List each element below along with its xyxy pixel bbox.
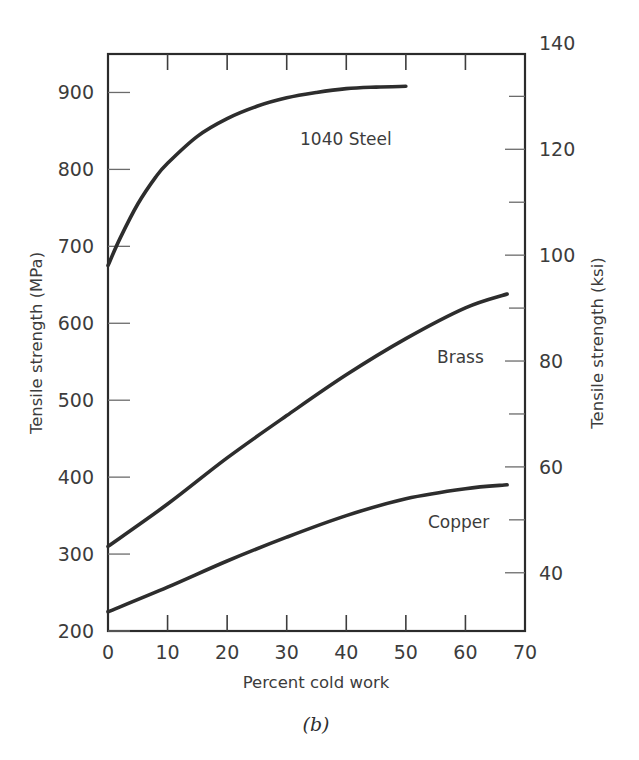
y-tick-label-right: 80: [539, 350, 563, 372]
x-tick-label: 0: [102, 641, 114, 663]
y-tick-label: 400: [58, 466, 94, 488]
y-tick-label: 200: [58, 620, 94, 642]
y-tick-label-right: 140: [539, 32, 575, 54]
y-axis-right-tick-labels: 406080100120140: [539, 32, 575, 583]
series-label-copper: Copper: [428, 512, 489, 532]
x-axis-tick-labels: 010203040506070: [102, 641, 537, 663]
y-axis-right-ticks: [505, 149, 525, 572]
tensile-strength-vs-cold-work-chart: 010203040506070 200300400500600700800900…: [0, 0, 639, 760]
y-tick-label: 300: [58, 543, 94, 565]
series-label-brass: Brass: [437, 347, 484, 367]
x-tick-label: 70: [513, 641, 537, 663]
x-axis-ticks: [168, 615, 466, 631]
x-tick-label: 60: [453, 641, 477, 663]
y-axis-left-title: Tensile strength (MPa): [27, 252, 46, 435]
x-axis-title: Percent cold work: [243, 673, 390, 692]
y-tick-label-right: 100: [539, 244, 575, 266]
series-label-1040-steel: 1040 Steel: [300, 129, 392, 149]
figure-container: 010203040506070 200300400500600700800900…: [0, 0, 639, 760]
y-tick-label-right: 40: [539, 562, 563, 584]
x-tick-label: 30: [275, 641, 299, 663]
y-axis-right-title: Tensile strength (ksi): [588, 257, 607, 429]
y-axis-right-minor-ticks: [509, 96, 525, 519]
x-axis-top-ticks: [168, 54, 466, 70]
series-curve-brass: [108, 294, 507, 546]
y-tick-label-right: 120: [539, 138, 575, 160]
x-tick-label: 10: [155, 641, 179, 663]
y-tick-label: 800: [58, 158, 94, 180]
y-tick-label: 700: [58, 235, 94, 257]
x-tick-label: 50: [394, 641, 418, 663]
y-axis-left-ticks: [108, 92, 130, 631]
x-tick-label: 40: [334, 641, 358, 663]
y-axis-left-tick-labels: 200300400500600700800900: [58, 81, 94, 642]
y-tick-label: 600: [58, 312, 94, 334]
y-tick-label: 900: [58, 81, 94, 103]
series-curve-1040-steel: [108, 86, 406, 265]
x-tick-label: 20: [215, 641, 239, 663]
y-tick-label-right: 60: [539, 456, 563, 478]
figure-caption: (b): [303, 713, 330, 735]
y-tick-label: 500: [58, 389, 94, 411]
